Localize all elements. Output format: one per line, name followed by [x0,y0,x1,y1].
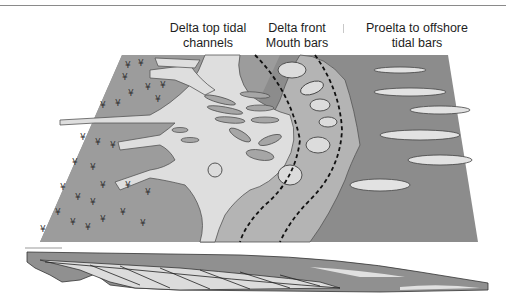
svg-text:¥: ¥ [110,140,116,150]
svg-text:¥: ¥ [160,80,166,90]
svg-text:¥: ¥ [85,222,91,232]
svg-text:¥: ¥ [128,88,134,98]
svg-text:¥: ¥ [120,207,126,217]
svg-text:¥: ¥ [155,94,161,104]
delta-block-diagram: ¥¥¥ ¥¥¥ ¥¥¥ ¥¥¥ ¥¥¥ ¥¥¥ ¥¥¥ ¥¥¥ ¥¥¥ [0,0,506,307]
tidal-channel-branch [155,58,200,68]
svg-text:¥: ¥ [72,157,78,167]
svg-text:¥: ¥ [70,217,76,227]
svg-text:¥: ¥ [100,180,106,190]
svg-text:¥: ¥ [140,218,146,228]
svg-text:¥: ¥ [40,224,46,234]
svg-text:¥: ¥ [115,98,121,108]
svg-text:¥: ¥ [125,180,131,190]
svg-text:¥: ¥ [90,162,96,172]
svg-text:¥: ¥ [75,192,81,202]
svg-text:¥: ¥ [145,82,151,92]
svg-text:¥: ¥ [100,100,106,110]
svg-text:¥: ¥ [100,214,106,224]
svg-text:¥: ¥ [138,58,144,68]
svg-text:¥: ¥ [122,72,128,82]
svg-text:¥: ¥ [55,207,61,217]
svg-text:¥: ¥ [60,182,66,192]
svg-text:¥: ¥ [125,60,131,70]
svg-text:¥: ¥ [80,132,86,142]
svg-text:¥: ¥ [145,187,151,197]
svg-text:¥: ¥ [95,137,101,147]
svg-text:¥: ¥ [90,197,96,207]
